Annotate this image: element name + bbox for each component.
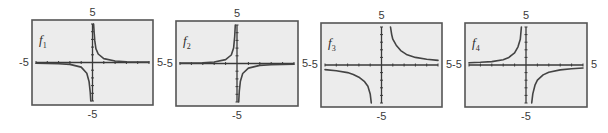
- graph-f4-top-label: 5: [523, 10, 529, 21]
- figure-four-function-graphs: 5 -5 -5 5 f1 5 -5 -5 5 f2 5 -5 -5 5 f3 5…: [0, 0, 608, 133]
- graph-f4-left-label: -5: [452, 59, 462, 70]
- graph-f4-right-label: 5: [591, 59, 597, 70]
- graph-f4-plot: [0, 0, 608, 133]
- graph-f4-function-name: f4: [472, 36, 480, 55]
- graph-f4-bottom-label: -5: [521, 111, 531, 122]
